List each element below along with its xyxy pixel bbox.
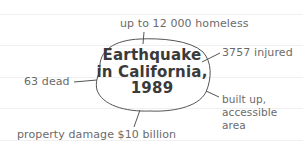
branch-damage: property damage $10 billion bbox=[17, 128, 176, 141]
branch-dead: 63 dead bbox=[24, 75, 70, 88]
branch-area-line: accessible bbox=[222, 106, 277, 119]
branch-homeless: up to 12 000 homeless bbox=[120, 17, 249, 30]
branch-area-line: built up, bbox=[222, 93, 277, 106]
center-line: Earthquake bbox=[96, 47, 208, 64]
connector-homeless bbox=[143, 32, 144, 44]
branch-area-line: area bbox=[222, 119, 277, 132]
center-line: 1989 bbox=[96, 80, 208, 97]
branch-injured: 3757 injured bbox=[222, 46, 293, 59]
center-line: in California, bbox=[96, 64, 208, 81]
connector-damage bbox=[134, 110, 140, 127]
center-topic: Earthquake in California, 1989 bbox=[96, 47, 208, 97]
branch-area: built up, accessible area bbox=[222, 93, 277, 132]
connector-dead bbox=[74, 80, 97, 82]
